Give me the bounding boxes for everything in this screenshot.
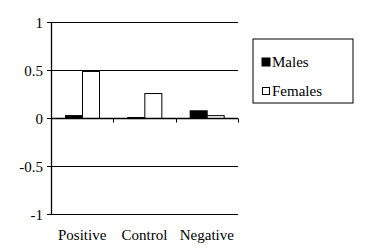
y-tick-label: -0.5 [19,159,43,175]
legend-swatch-females [263,88,270,95]
y-tick-label: 0.5 [24,63,43,79]
y-tick-label: 0 [36,111,44,127]
legend-swatch-males [262,58,270,66]
bar-chart: 10.50-0.5-1 PositiveControlNegative Male… [0,0,370,252]
legend-label-males: Males [272,54,309,70]
y-tick-label: -1 [31,207,44,223]
bar-males-negative [190,111,207,119]
bars [66,71,225,118]
y-axis-tick-labels: 10.50-0.5-1 [19,15,43,223]
legend: Males Females [253,39,353,103]
x-category-label: Negative [180,227,234,243]
bar-females-control [145,94,162,119]
axes [51,22,239,215]
x-category-label: Control [122,227,168,243]
x-category-label: Positive [58,227,107,243]
x-axis-category-labels: PositiveControlNegative [58,227,234,243]
bar-females-positive [83,71,100,118]
legend-label-females: Females [272,83,322,99]
y-tick-label: 1 [36,15,44,31]
